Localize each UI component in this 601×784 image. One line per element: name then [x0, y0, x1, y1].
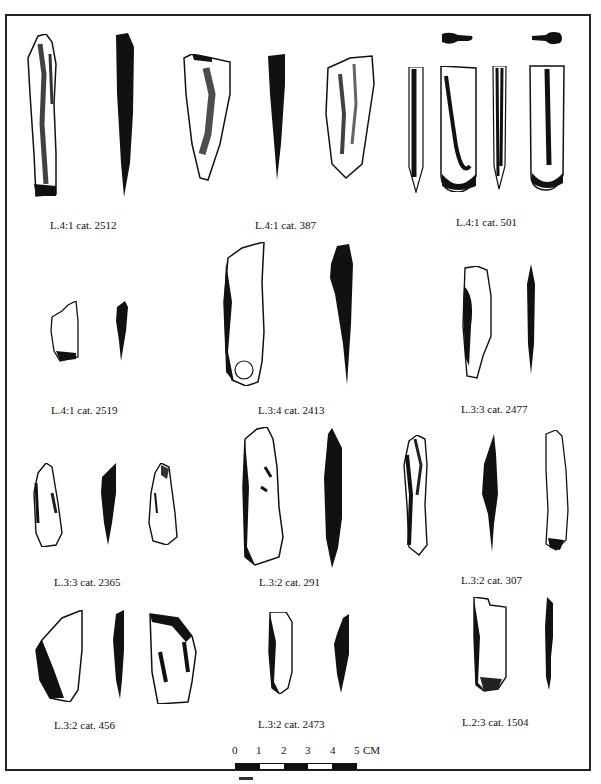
artifact-456-drawing — [34, 610, 86, 702]
artifact-501-drawing — [440, 66, 478, 192]
artifact-2365-profile — [100, 463, 118, 545]
scale-segment — [308, 764, 332, 769]
artifact-501-drawing-2 — [529, 65, 565, 191]
artifact-501-cross-section-2 — [530, 31, 564, 46]
artifact-2477-drawing — [461, 266, 493, 380]
artifact-label: L.2:3 cat. 1504 — [462, 716, 529, 728]
artifact-2512-drawing — [26, 34, 60, 199]
artifact-2477-profile — [526, 264, 536, 375]
scale-segment — [332, 764, 356, 769]
artifact-label: L.3:3 cat. 2365 — [54, 576, 121, 588]
scale-segment — [236, 764, 260, 769]
artifact-501-profile-2 — [492, 66, 507, 190]
scale-segment — [260, 764, 284, 769]
scale-tick-4: 4 — [330, 744, 336, 756]
artifact-label: L.3:4 cat. 2413 — [258, 404, 325, 416]
artifact-2365-drawing-reverse — [147, 463, 179, 545]
artifact-2519-drawing — [50, 301, 80, 362]
artifact-label: L.4:1 cat. 501 — [456, 216, 517, 228]
artifact-501-cross-section — [440, 32, 474, 46]
artifact-2365-drawing — [32, 463, 66, 547]
artifact-label: L.4:1 cat. 2519 — [51, 404, 118, 416]
artifact-2512-profile — [114, 33, 136, 198]
scale-tick-3: 3 — [305, 744, 311, 756]
artifact-2473-profile — [333, 614, 351, 694]
artifact-387-drawing-reverse — [324, 54, 376, 180]
artifact-307-drawing — [403, 435, 431, 556]
artifact-2413-drawing — [222, 242, 268, 386]
artifact-456-drawing-reverse — [148, 612, 198, 704]
artifact-label: L.3:2 cat. 456 — [54, 719, 115, 731]
artifact-307-profile — [480, 434, 500, 553]
artifact-label: L.3:2 cat. 291 — [259, 576, 320, 588]
artifact-291-profile — [322, 428, 344, 569]
artifact-label: L.3:2 cat. 307 — [461, 574, 522, 586]
artifact-2413-profile — [329, 244, 354, 386]
artifact-1504-profile — [543, 597, 555, 691]
scale-tick-1: 1 — [256, 744, 262, 756]
scale-labels: 0 1 2 3 4 5 CM — [232, 744, 392, 758]
artifact-2519-profile — [115, 301, 129, 362]
page-mark — [239, 777, 253, 780]
scale-bar — [235, 763, 357, 770]
artifact-501-profile — [408, 67, 424, 193]
artifact-label: L.3:3 cat. 2477 — [461, 403, 528, 415]
artifact-2473-drawing — [268, 612, 294, 694]
artifact-label: L.4:1 cat. 387 — [255, 219, 316, 231]
artifact-label: L.4:1 cat. 2512 — [50, 219, 117, 231]
scale-unit: CM — [363, 744, 380, 756]
scale-tick-5: 5 — [354, 744, 360, 756]
artifact-387-drawing — [182, 54, 234, 182]
artifact-291-drawing — [241, 427, 287, 566]
artifact-456-profile — [112, 610, 126, 700]
artifact-label: L.3:2 cat. 2473 — [258, 718, 325, 730]
scale-tick-0: 0 — [232, 744, 238, 756]
scale-tick-2: 2 — [281, 744, 287, 756]
artifact-307-drawing-reverse — [542, 430, 570, 551]
scale-segment — [284, 764, 308, 769]
artifact-1504-drawing — [472, 597, 508, 692]
artifact-387-profile — [267, 54, 287, 181]
